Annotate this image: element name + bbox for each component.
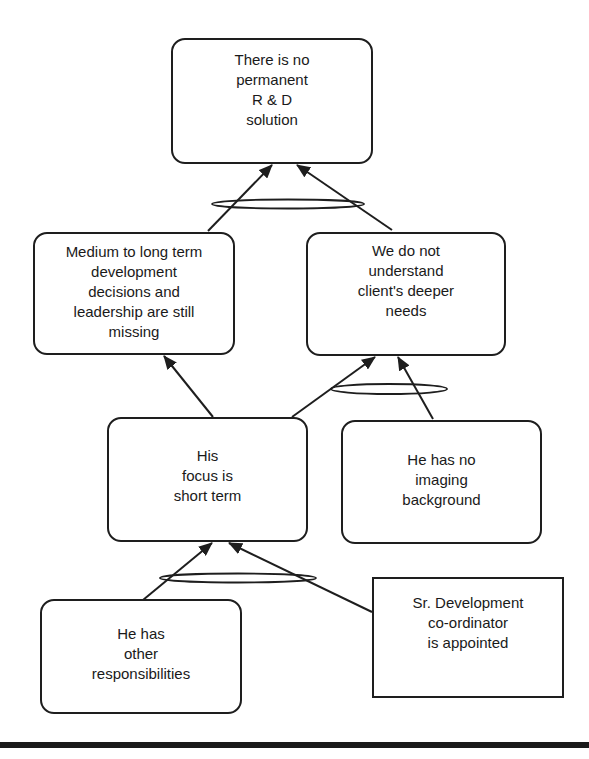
bottom-rule-divider bbox=[0, 742, 589, 748]
node-client-needs-not-understood: We do not understand client's deeper nee… bbox=[306, 232, 506, 356]
node-text-line: missing bbox=[109, 322, 160, 342]
node-text-line: There is no bbox=[234, 50, 309, 70]
node-text-line: responsibilities bbox=[92, 664, 190, 684]
arrow-appointed-to-focus bbox=[229, 543, 372, 612]
node-text-line: needs bbox=[386, 301, 427, 321]
node-text-line: solution bbox=[246, 110, 298, 130]
node-text-line: We do not bbox=[372, 241, 440, 261]
node-text-line: development bbox=[91, 262, 177, 282]
node-other-responsibilities: He has other responsibilities bbox=[40, 599, 242, 714]
arrow-focus-to-midleft bbox=[164, 356, 213, 417]
node-no-permanent-rd-solution: There is no permanent R & D solution bbox=[171, 38, 373, 164]
node-short-term-focus: His focus is short term bbox=[107, 417, 308, 542]
node-text-line: He has bbox=[117, 624, 165, 644]
arrow-imaging-to-midright bbox=[398, 357, 433, 419]
node-text-line: His bbox=[197, 446, 219, 466]
node-text-line: R & D bbox=[252, 90, 292, 110]
node-text-line: other bbox=[124, 644, 158, 664]
node-text-line: short term bbox=[174, 486, 242, 506]
arrow-responsibilities-to-focus bbox=[143, 543, 212, 600]
arrow-midleft-to-top bbox=[208, 165, 272, 231]
node-text-line: leadership are still bbox=[74, 302, 195, 322]
node-text-line: He has no bbox=[407, 450, 475, 470]
node-leadership-missing: Medium to long term development decision… bbox=[33, 232, 235, 355]
node-text-line: Sr. Development bbox=[413, 593, 524, 613]
and-connector-midright bbox=[331, 384, 447, 394]
arrow-midright-to-top bbox=[297, 165, 392, 230]
node-text-line: client's deeper bbox=[358, 281, 454, 301]
node-text-line: imaging bbox=[415, 470, 468, 490]
node-text-line: focus is bbox=[182, 466, 233, 486]
node-coordinator-appointed: Sr. Development co-ordinator is appointe… bbox=[372, 577, 564, 698]
node-text-line: co-ordinator bbox=[428, 613, 508, 633]
node-text-line: background bbox=[402, 490, 480, 510]
node-text-line: understand bbox=[368, 261, 443, 281]
node-no-imaging-background: He has no imaging background bbox=[341, 420, 542, 544]
and-connector-focus bbox=[160, 574, 316, 583]
node-text-line: permanent bbox=[236, 70, 308, 90]
node-text-line: decisions and bbox=[88, 282, 180, 302]
node-text-line: is appointed bbox=[428, 633, 509, 653]
node-text-line: Medium to long term bbox=[66, 242, 203, 262]
